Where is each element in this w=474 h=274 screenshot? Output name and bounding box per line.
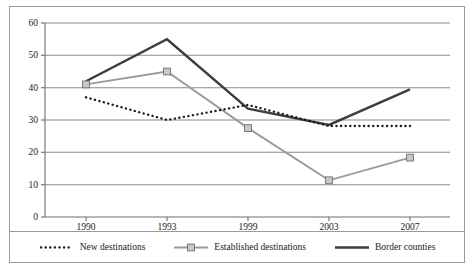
legend-label: Border counties [375, 242, 435, 252]
x-tick-label: 1990 [77, 222, 96, 231]
legend-swatch-solid-icon [334, 242, 370, 253]
chart-figure: 60 50 40 30 20 10 0 [9, 6, 465, 263]
y-tick-label: 60 [29, 18, 39, 28]
y-tick-label: 0 [33, 212, 38, 222]
chart-legend: New destinations Established destination… [10, 231, 464, 262]
plot-area: 60 50 40 30 20 10 0 [10, 7, 464, 231]
y-axis-tick-labels: 60 50 40 30 20 10 0 [29, 18, 39, 222]
y-tick-label: 20 [29, 147, 39, 157]
legend-label: Established destinations [214, 242, 306, 252]
y-tick-label: 30 [29, 115, 39, 125]
y-axis [41, 23, 45, 217]
x-tick-label: 1999 [239, 222, 258, 231]
line-chart-svg: 60 50 40 30 20 10 0 [10, 7, 464, 231]
legend-item-border-counties: Border counties [334, 242, 435, 253]
x-tick-label: 1993 [158, 222, 177, 231]
x-axis-tick-labels: 1990 1993 1999 2003 2007 [77, 222, 420, 231]
legend-swatch-dotted-icon [39, 242, 75, 253]
x-tick-label: 2007 [401, 222, 420, 231]
legend-item-established-destinations: Established destinations [173, 242, 306, 253]
y-tick-label: 40 [29, 83, 39, 93]
legend-swatch-square-marker-icon [173, 242, 209, 253]
x-axis [45, 217, 450, 221]
x-tick-label: 2003 [320, 222, 339, 231]
y-tick-label: 10 [29, 180, 39, 190]
y-tick-label: 50 [29, 50, 39, 60]
gridlines [45, 23, 450, 185]
legend-label: New destinations [80, 242, 146, 252]
legend-item-new-destinations: New destinations [39, 242, 146, 253]
